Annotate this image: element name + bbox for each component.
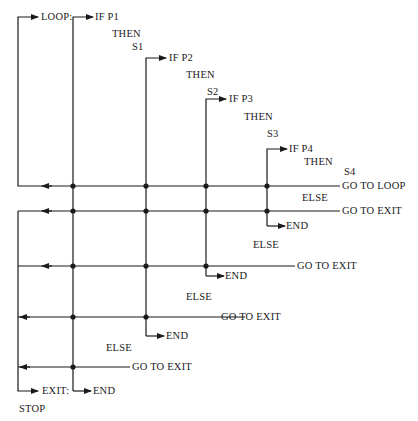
if-p1-label: IF P1: [95, 11, 119, 23]
then-1-label: THEN: [112, 28, 141, 40]
else-3-label: ELSE: [253, 239, 279, 251]
else-4-label: ELSE: [302, 192, 328, 204]
end-2-label: END: [166, 330, 188, 342]
goto-exit-1-label: GO TO EXIT: [132, 361, 192, 373]
if-p2-label: IF P2: [169, 52, 193, 64]
end-3-label: END: [225, 270, 247, 282]
else-1-label: ELSE: [106, 342, 132, 354]
s4-label: S4: [344, 166, 356, 178]
goto-exit-3-label: GO TO EXIT: [297, 260, 357, 272]
s2-label: S2: [207, 86, 219, 98]
stop-label: STOP: [19, 403, 45, 415]
if-p3-label: IF P3: [229, 93, 253, 105]
goto-exit-4-label: GO TO EXIT: [342, 205, 402, 217]
then-2-label: THEN: [186, 69, 215, 81]
exit-label: EXIT:: [42, 385, 69, 397]
goto-exit-2-label: GO TO EXIT: [221, 311, 281, 323]
else-2-label: ELSE: [186, 291, 212, 303]
then-3-label: THEN: [244, 111, 273, 123]
s3-label: S3: [267, 128, 279, 140]
end-4-label: END: [286, 220, 308, 232]
if-p4-label: IF P4: [289, 143, 313, 155]
s1-label: S1: [132, 41, 144, 53]
nested-if-flow-diagram: LOOP: IF P1 THEN S1 IF P2 THEN S2 IF P3 …: [0, 0, 418, 421]
loop-label: LOOP:: [41, 11, 72, 23]
goto-loop-label: GO TO LOOP: [342, 180, 405, 192]
end-1-label: END: [93, 385, 115, 397]
then-4-label: THEN: [304, 156, 333, 168]
